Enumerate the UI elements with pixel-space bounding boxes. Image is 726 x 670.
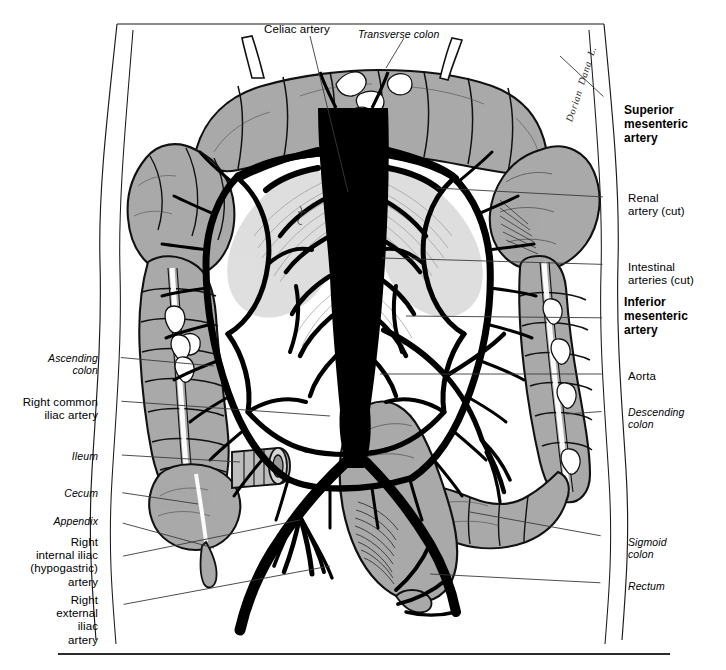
label-right-internal-iliac-artery: Right internal iliac (hypogastric) arter…	[0, 536, 98, 589]
footer-rule	[58, 653, 670, 655]
label-superior-mesenteric-artery: Superior mesenteric artery	[624, 103, 688, 145]
figure-page: Celiac artery Transverse colon Superior …	[0, 0, 726, 670]
descending-colon	[519, 256, 592, 502]
label-sigmoid-colon: Sigmoid colon	[628, 536, 667, 561]
label-descending-colon: Descending colon	[628, 406, 684, 431]
label-ileum: Ileum	[0, 450, 98, 462]
label-rectum: Rectum	[628, 580, 665, 592]
label-intestinal-arteries-cut: Intestinal arteries (cut)	[628, 261, 694, 287]
label-cecum: Cecum	[0, 487, 98, 499]
label-aorta: Aorta	[628, 370, 656, 383]
label-inferior-mesenteric-artery: Inferior mesenteric artery	[624, 295, 688, 337]
label-renal-artery-cut: Renal artery (cut)	[628, 192, 685, 218]
label-right-common-iliac-artery: Right common iliac artery	[0, 396, 98, 422]
label-transverse-colon: Transverse colon	[358, 28, 439, 40]
label-celiac-artery: Celiac artery	[264, 23, 330, 36]
label-right-external-iliac-artery: Right external iliac artery	[0, 594, 98, 647]
label-ascending-colon: Ascending colon	[0, 352, 98, 377]
anatomy-illustration	[0, 0, 726, 670]
cecum	[149, 464, 240, 587]
label-appendix: Appendix	[0, 515, 98, 527]
